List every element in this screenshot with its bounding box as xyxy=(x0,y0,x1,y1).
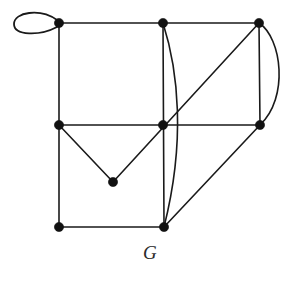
middle-left-vertex xyxy=(54,120,63,129)
top-middle-vertex xyxy=(158,18,167,27)
middle-right-vertex xyxy=(255,120,264,129)
graph-figure: G xyxy=(0,0,300,283)
self-loop-top-left xyxy=(14,13,57,34)
graph-canvas xyxy=(0,0,300,283)
edge-layer xyxy=(14,13,279,227)
top-right-vertex xyxy=(254,18,263,27)
center-vertex xyxy=(158,120,167,129)
bottom-left-vertex xyxy=(54,222,63,231)
graph-label: G xyxy=(0,243,300,262)
top-left-vertex xyxy=(54,18,63,27)
edge-top-right-to-middle-right-curved xyxy=(259,23,279,125)
edge-top-right-to-middle-right-straight xyxy=(259,23,260,125)
edge-top-right-to-lower-apex-diagonal xyxy=(113,23,259,182)
edge-bottom-middle-to-middle-right-diagonal xyxy=(164,125,260,227)
edge-middle-left-to-lower-apex xyxy=(59,125,113,182)
lower-apex-vertex xyxy=(108,177,117,186)
bottom-middle-vertex xyxy=(159,222,168,231)
